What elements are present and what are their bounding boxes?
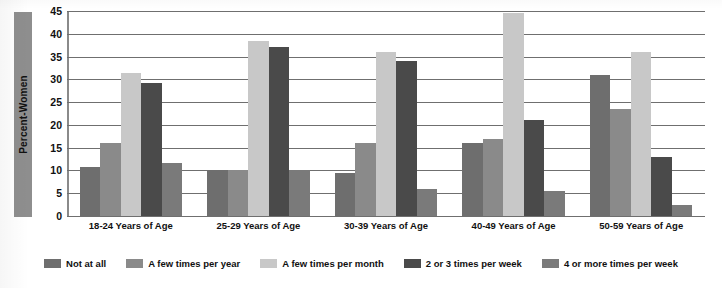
bars-layer bbox=[67, 11, 705, 216]
bar[interactable] bbox=[248, 41, 269, 216]
plot-area bbox=[67, 11, 705, 216]
legend-item[interactable]: A few times per month bbox=[260, 258, 384, 269]
y-axis-tick-label: 25 bbox=[36, 96, 62, 108]
legend-swatch-icon bbox=[126, 259, 143, 268]
chart-root: Percent-Women 051015202530354045 18-24 Y… bbox=[0, 0, 722, 288]
bar[interactable] bbox=[228, 170, 249, 216]
legend-item[interactable]: 2 or 3 times per week bbox=[404, 258, 522, 269]
legend-item[interactable]: 4 or more times per week bbox=[542, 258, 678, 269]
legend-swatch-icon bbox=[260, 259, 277, 268]
x-axis-category-label: 25-29 Years of Age bbox=[216, 220, 300, 231]
y-axis-tick-label: 40 bbox=[36, 28, 62, 40]
bar[interactable] bbox=[672, 205, 693, 216]
x-axis-category-label: 40-49 Years of Age bbox=[472, 220, 556, 231]
y-axis-tick-label: 5 bbox=[36, 187, 62, 199]
bar[interactable] bbox=[417, 189, 438, 216]
legend-swatch-icon bbox=[542, 259, 559, 268]
bar[interactable] bbox=[503, 13, 524, 216]
bar[interactable] bbox=[289, 170, 310, 216]
bar-group bbox=[462, 11, 565, 216]
y-axis-tick-label: 35 bbox=[36, 51, 62, 63]
x-axis-category-label: 18-24 Years of Age bbox=[89, 220, 173, 231]
bar[interactable] bbox=[100, 143, 121, 216]
y-axis-tick-label: 0 bbox=[36, 210, 62, 222]
x-axis-category-label: 30-39 Years of Age bbox=[344, 220, 428, 231]
legend-label: 2 or 3 times per week bbox=[426, 258, 522, 269]
chart-legend: Not at allA few times per yearA few time… bbox=[0, 254, 722, 272]
y-axis-tick-labels: 051015202530354045 bbox=[36, 10, 62, 215]
bar[interactable] bbox=[483, 139, 504, 216]
bar[interactable] bbox=[141, 83, 162, 216]
bar[interactable] bbox=[355, 143, 376, 216]
legend-label: Not at all bbox=[66, 258, 106, 269]
gridline bbox=[67, 216, 705, 217]
y-axis-tick-label: 10 bbox=[36, 164, 62, 176]
y-axis-tick-label: 20 bbox=[36, 119, 62, 131]
legend-label: 4 or more times per week bbox=[564, 258, 678, 269]
y-axis-tick-label: 15 bbox=[36, 142, 62, 154]
bar[interactable] bbox=[610, 109, 631, 216]
bar[interactable] bbox=[335, 173, 356, 216]
x-axis-category-labels: 18-24 Years of Age25-29 Years of Age30-3… bbox=[67, 220, 705, 236]
x-axis-category-label: 50-59 Years of Age bbox=[599, 220, 683, 231]
bar[interactable] bbox=[376, 52, 397, 216]
bar[interactable] bbox=[524, 120, 545, 216]
legend-label: A few times per month bbox=[282, 258, 384, 269]
legend-item[interactable]: Not at all bbox=[44, 258, 106, 269]
y-axis-tick-label: 30 bbox=[36, 73, 62, 85]
bar[interactable] bbox=[631, 52, 652, 216]
bar[interactable] bbox=[207, 170, 228, 216]
y-axis-title: Percent-Women bbox=[14, 12, 32, 217]
bar[interactable] bbox=[269, 47, 290, 216]
bar[interactable] bbox=[80, 167, 101, 216]
bar[interactable] bbox=[544, 191, 565, 216]
y-axis-title-text: Percent-Women bbox=[18, 75, 29, 154]
bar[interactable] bbox=[651, 157, 672, 216]
y-axis-tick-label: 45 bbox=[36, 5, 62, 17]
bar-group bbox=[335, 11, 438, 216]
legend-label: A few times per year bbox=[148, 258, 240, 269]
bar[interactable] bbox=[590, 75, 611, 216]
legend-swatch-icon bbox=[44, 259, 61, 268]
bar[interactable] bbox=[121, 73, 142, 216]
bar-group bbox=[80, 11, 183, 216]
bar[interactable] bbox=[462, 143, 483, 216]
bar-group bbox=[590, 11, 693, 216]
legend-item[interactable]: A few times per year bbox=[126, 258, 240, 269]
bar-group bbox=[207, 11, 310, 216]
bar[interactable] bbox=[396, 61, 417, 216]
legend-swatch-icon bbox=[404, 259, 421, 268]
bar[interactable] bbox=[162, 163, 183, 216]
